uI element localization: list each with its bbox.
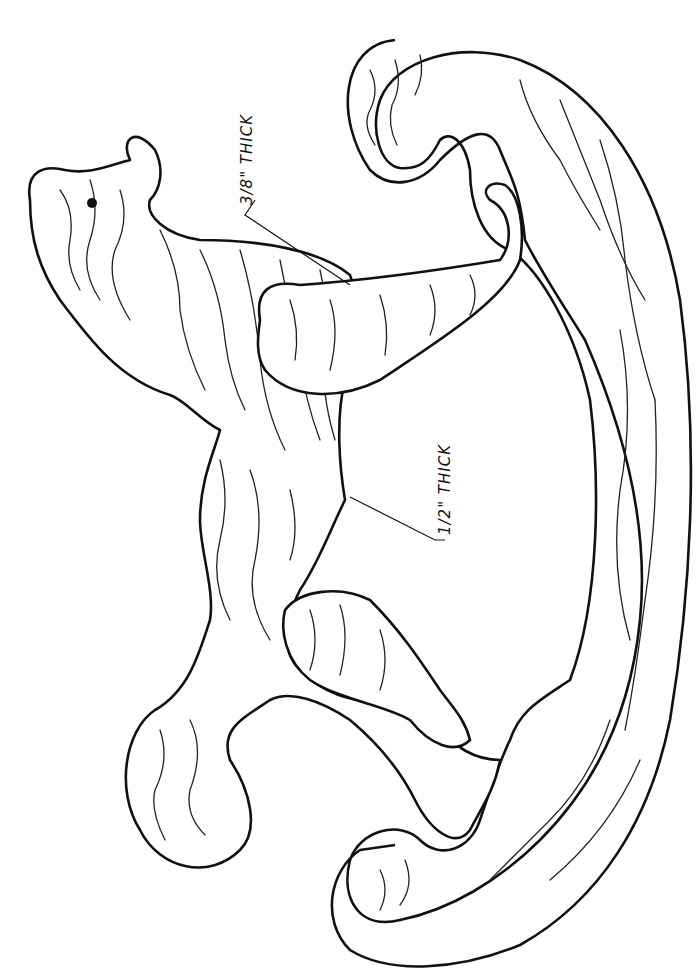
thickness-label-3-8: 3/8" THICK xyxy=(238,114,256,205)
thickness-label-1-2: 1/2" THICK xyxy=(436,444,454,535)
rocker-base xyxy=(332,40,691,966)
eye xyxy=(87,198,97,208)
rocking-horse-diagram: 3/8" THICK 1/2" THICK xyxy=(0,0,700,977)
